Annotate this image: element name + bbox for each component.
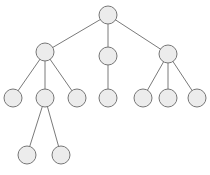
tree-node-a <box>36 43 54 61</box>
edge-root-a <box>45 15 108 52</box>
tree-node-b1 <box>99 89 117 107</box>
edges-layer <box>13 15 197 155</box>
tree-node-root <box>99 6 117 24</box>
tree-node-a2x <box>18 146 36 164</box>
tree-node-c3 <box>188 89 206 107</box>
tree-node-a3 <box>68 89 86 107</box>
tree-node-c2 <box>159 89 177 107</box>
tree-node-a2y <box>52 146 70 164</box>
tree-node-c1 <box>134 89 152 107</box>
nodes-layer <box>4 6 206 164</box>
tree-node-b <box>99 47 117 65</box>
tree-diagram <box>0 0 210 175</box>
tree-node-a1 <box>4 89 22 107</box>
edge-root-c <box>108 15 168 54</box>
tree-node-a2 <box>36 89 54 107</box>
tree-node-c <box>159 45 177 63</box>
